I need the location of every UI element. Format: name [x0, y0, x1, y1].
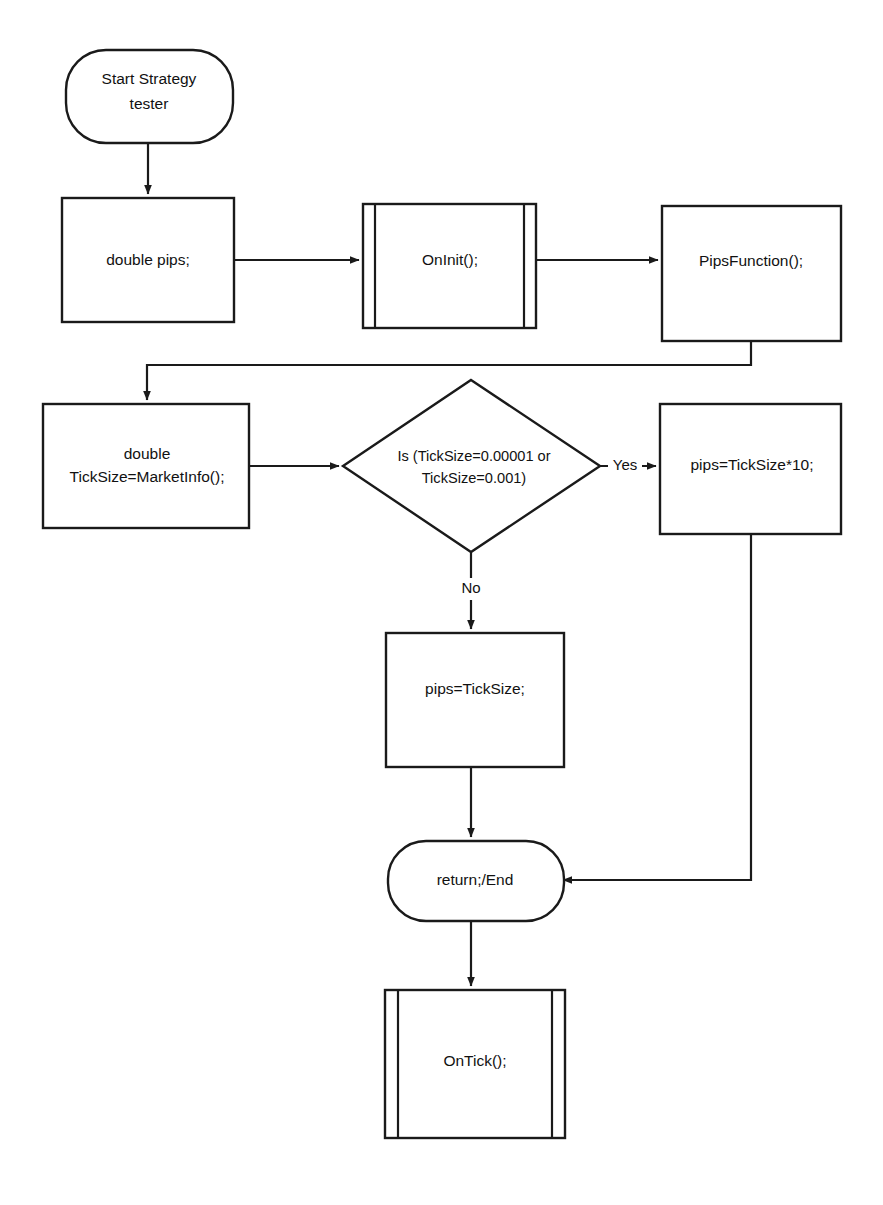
node-pipsfunction[interactable]: PipsFunction();	[662, 206, 841, 341]
node-ticksize[interactable]: double TickSize=MarketInfo();	[43, 404, 249, 528]
ticksize-label-line2: TickSize=MarketInfo();	[70, 468, 225, 485]
node-start[interactable]: Start Strategy tester	[66, 50, 233, 143]
start-label-line2: tester	[130, 95, 169, 112]
edge-pips-times-ten-to-return-end	[563, 534, 751, 880]
ontick-label: OnTick();	[443, 1052, 506, 1069]
decision-label-line2: TickSize=0.001)	[422, 470, 527, 486]
edge-pipsfunction-to-ticksize	[147, 341, 751, 400]
oninit-label: OnInit();	[422, 251, 478, 268]
node-decision[interactable]: Is (TickSize=0.00001 or TickSize=0.001)	[343, 380, 600, 552]
node-return-end[interactable]: return;/End	[388, 841, 564, 921]
flowchart-canvas: Start Strategy tester double pips; OnIni…	[0, 0, 883, 1205]
no-label-text: No	[461, 579, 480, 596]
return-end-label: return;/End	[437, 871, 514, 888]
double-pips-label: double pips;	[106, 251, 190, 268]
pips-times-ten-label: pips=TickSize*10;	[690, 456, 813, 473]
node-pips-times-ten[interactable]: pips=TickSize*10;	[660, 404, 841, 534]
pips-equals-ticksize-shape	[386, 633, 564, 767]
edge-label-yes: Yes	[608, 455, 642, 477]
node-pips-equals-ticksize[interactable]: pips=TickSize;	[386, 633, 564, 767]
decision-label-line1: Is (TickSize=0.00001 or	[397, 448, 550, 464]
flowchart-svg: Start Strategy tester double pips; OnIni…	[0, 0, 883, 1205]
node-double-pips[interactable]: double pips;	[62, 198, 234, 322]
yes-label-text: Yes	[613, 456, 637, 473]
node-oninit[interactable]: OnInit();	[363, 204, 536, 328]
pips-equals-ticksize-label: pips=TickSize;	[425, 680, 525, 697]
pipsfunction-shape	[662, 206, 841, 341]
ticksize-shape	[43, 404, 249, 528]
ticksize-label-line1: double	[124, 445, 171, 462]
decision-shape	[343, 380, 600, 552]
edge-label-no: No	[455, 578, 487, 600]
node-ontick[interactable]: OnTick();	[385, 990, 565, 1138]
start-label-line1: Start Strategy	[102, 70, 197, 87]
pipsfunction-label: PipsFunction();	[699, 252, 803, 269]
